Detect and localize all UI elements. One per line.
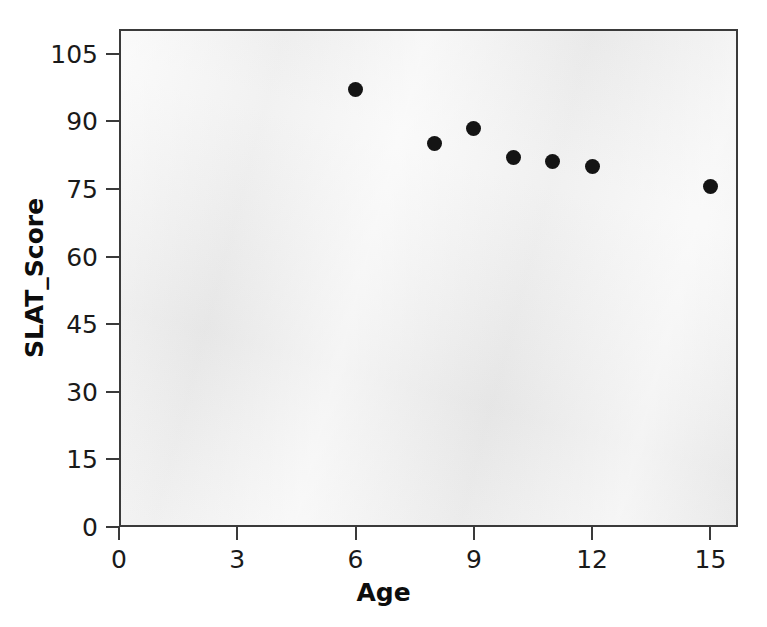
y-axis-title: SLAT_Score — [20, 198, 49, 358]
y-tick-label: 15 — [0, 445, 98, 474]
data-point — [348, 82, 363, 97]
y-tick-mark — [106, 120, 119, 122]
y-tick-mark — [106, 458, 119, 460]
x-tick-mark — [236, 527, 238, 540]
x-tick-label: 0 — [111, 545, 127, 574]
y-tick-mark — [106, 188, 119, 190]
x-tick-label: 12 — [576, 545, 608, 574]
y-tick-label: 30 — [0, 377, 98, 406]
x-tick-mark — [591, 527, 593, 540]
y-tick-mark — [106, 53, 119, 55]
data-point — [466, 121, 481, 136]
data-point — [506, 150, 521, 165]
x-tick-label: 9 — [466, 545, 482, 574]
x-axis-title: Age — [0, 578, 767, 607]
x-tick-mark — [118, 527, 120, 540]
y-tick-mark — [106, 256, 119, 258]
data-point — [545, 154, 560, 169]
x-tick-mark — [473, 527, 475, 540]
data-point — [703, 179, 718, 194]
data-point — [585, 159, 600, 174]
plot-panel — [119, 29, 738, 527]
data-point — [427, 136, 442, 151]
x-tick-label: 3 — [229, 545, 245, 574]
y-tick-label: 60 — [0, 242, 98, 271]
y-tick-mark — [106, 391, 119, 393]
y-tick-label: 105 — [0, 39, 98, 68]
y-tick-label: 0 — [0, 513, 98, 542]
x-tick-mark — [355, 527, 357, 540]
y-tick-label: 90 — [0, 107, 98, 136]
panel-texture — [121, 31, 736, 525]
x-tick-label: 6 — [348, 545, 364, 574]
y-tick-label: 75 — [0, 174, 98, 203]
x-tick-label: 15 — [694, 545, 726, 574]
y-tick-label: 45 — [0, 310, 98, 339]
y-tick-mark — [106, 323, 119, 325]
x-tick-mark — [709, 527, 711, 540]
scatter-plot-figure: 0153045607590105 03691215 Age SLAT_Score — [0, 0, 767, 627]
